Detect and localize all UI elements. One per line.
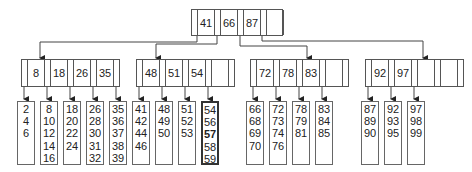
leaf-node: 929395: [384, 101, 402, 165]
leaf-value: 26: [87, 103, 103, 115]
leaf-value: 18: [64, 103, 80, 115]
pointer-cell: [284, 10, 289, 35]
leaf-value: 92: [385, 103, 401, 115]
leaf-value: 35: [110, 103, 126, 115]
leaf-node: 979899: [407, 101, 425, 165]
leaf-value: 53: [179, 127, 195, 139]
leaf-value: 36: [110, 115, 126, 127]
leaf-value: 79: [293, 115, 309, 127]
leaf-node: 787981: [292, 101, 310, 165]
leaf-node: 72737476: [269, 101, 287, 165]
leaf-node: 2628303132: [86, 101, 104, 165]
internal-key: 54: [189, 60, 206, 86]
leaf-value: 97: [408, 103, 424, 115]
leaf-value: 57: [203, 128, 217, 140]
internal-node: 72 78 83: [250, 59, 349, 87]
leaf-value: 4: [18, 115, 34, 127]
leaf-value: 93: [385, 115, 401, 127]
leaf-value: 14: [41, 140, 57, 152]
leaf-value: 10: [41, 115, 57, 127]
leaf-value: 44: [133, 127, 149, 139]
leaf-value: 81: [293, 127, 309, 139]
leaf-value: 22: [64, 127, 80, 139]
leaf-value: 52: [179, 115, 195, 127]
leaf-value: 38: [110, 140, 126, 152]
leaf-value: 24: [64, 140, 80, 152]
leaf-value: 78: [293, 103, 309, 115]
internal-key: 72: [257, 60, 274, 86]
root-key: 87: [244, 10, 261, 35]
leaf-value: 39: [110, 152, 126, 164]
leaf-node: 878990: [361, 101, 379, 165]
root-key: 41: [198, 10, 215, 35]
leaf-value: 12: [41, 127, 57, 139]
leaf-value: 90: [362, 127, 378, 139]
leaf-value: 2: [18, 103, 34, 115]
leaf-value: 70: [247, 140, 263, 152]
internal-key: 78: [280, 60, 297, 86]
leaf-value: 95: [385, 127, 401, 139]
leaf-value: 68: [247, 115, 263, 127]
internal-key: 18: [51, 60, 68, 86]
internal-key: 83: [303, 60, 320, 86]
leaf-value: 59: [203, 153, 217, 165]
b-tree-diagram: 41 66 87 8 18 26 35 48 51 54 72 78: [0, 0, 472, 172]
leaf-value: 89: [362, 115, 378, 127]
leaf-value: 83: [316, 103, 332, 115]
leaf-value: 98: [408, 115, 424, 127]
pointer-cell: [229, 60, 234, 86]
leaf-value: 76: [270, 140, 286, 152]
leaf-value: 16: [41, 152, 57, 164]
leaf-value: 85: [316, 127, 332, 139]
leaf-node: 5456575859: [201, 101, 219, 165]
internal-key: 97: [395, 60, 412, 86]
leaf-node: 18202224: [63, 101, 81, 165]
leaf-value: 20: [64, 115, 80, 127]
leaf-value: 73: [270, 115, 286, 127]
root-key: 66: [221, 10, 238, 35]
leaf-value: 74: [270, 127, 286, 139]
leaf-node: 515253: [178, 101, 196, 165]
pointer-cell: [458, 60, 463, 86]
internal-key: 35: [97, 60, 114, 86]
leaf-value: 28: [87, 115, 103, 127]
root-node: 41 66 87: [191, 9, 283, 36]
internal-key: [326, 60, 343, 86]
internal-key: [212, 60, 229, 86]
leaf-value: 42: [133, 115, 149, 127]
internal-node: 48 51 54: [136, 59, 235, 87]
leaf-value: 56: [203, 116, 217, 128]
internal-key: 48: [143, 60, 160, 86]
internal-key: [418, 60, 435, 86]
leaf-value: 49: [156, 115, 172, 127]
internal-key: 51: [166, 60, 183, 86]
leaf-value: 31: [87, 140, 103, 152]
leaf-value: 46: [133, 140, 149, 152]
leaf-node: 484950: [155, 101, 173, 165]
leaf-value: 69: [247, 127, 263, 139]
leaf-node: 3536373839: [109, 101, 127, 165]
leaf-value: 72: [270, 103, 286, 115]
leaf-value: 51: [179, 103, 195, 115]
pointer-cell: [114, 60, 119, 86]
internal-key: 8: [28, 60, 45, 86]
leaf-value: 87: [362, 103, 378, 115]
leaf-value: 50: [156, 127, 172, 139]
leaf-value: 8: [41, 103, 57, 115]
leaf-value: 32: [87, 152, 103, 164]
leaf-value: 41: [133, 103, 149, 115]
leaf-node: 66686970: [246, 101, 264, 165]
internal-key: [441, 60, 458, 86]
internal-node: 92 97: [365, 59, 464, 87]
leaf-node: 41424446: [132, 101, 150, 165]
leaf-node: 810121416: [40, 101, 58, 165]
leaf-node: 838485: [315, 101, 333, 165]
leaf-value: 99: [408, 127, 424, 139]
leaf-node: 246: [17, 101, 35, 165]
leaf-value: 30: [87, 127, 103, 139]
root-key: [267, 10, 284, 35]
leaf-value: 37: [110, 127, 126, 139]
internal-key: 26: [74, 60, 91, 86]
pointer-cell: [343, 60, 348, 86]
leaf-value: 58: [203, 141, 217, 153]
